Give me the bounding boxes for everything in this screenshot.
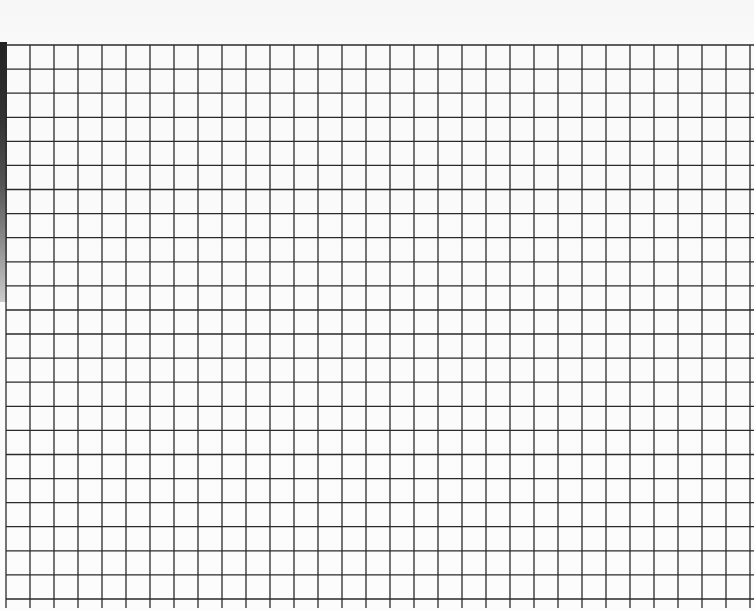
graph-paper xyxy=(0,0,754,611)
grid-lines xyxy=(0,0,754,611)
